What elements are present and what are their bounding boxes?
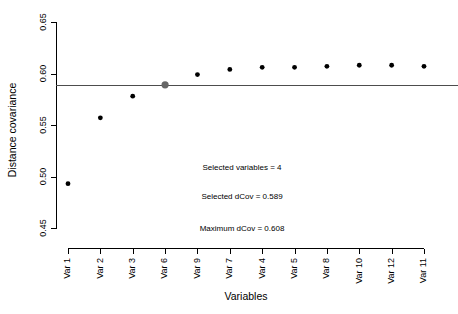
x-tick-labels: Var 1Var 2Var 3Var 6Var 9Var 7Var 4Var 5… — [62, 258, 428, 284]
data-point — [98, 115, 103, 120]
data-point — [325, 64, 330, 69]
plot-canvas: 0.450.500.550.600.65 Var 1Var 2Var 3Var … — [0, 0, 458, 314]
data-point — [195, 72, 200, 77]
selected-data-point — [161, 81, 168, 88]
x-tick-label: Var 6 — [159, 258, 169, 279]
annotation-line: Maximum dCov = 0.608 — [200, 224, 285, 233]
x-tick-label: Var 10 — [354, 258, 364, 284]
annotations: Selected variables = 4Selected dCov = 0.… — [200, 163, 285, 233]
data-point — [357, 63, 362, 68]
y-tick-label: 0.60 — [38, 65, 48, 83]
data-point — [227, 67, 232, 72]
x-tick-label: Var 11 — [418, 258, 428, 283]
x-axis — [68, 249, 425, 255]
x-tick-label: Var 1 — [62, 258, 72, 279]
x-tick-label: Var 5 — [289, 258, 299, 279]
y-tick-labels: 0.450.500.550.600.65 — [38, 13, 48, 237]
data-point — [292, 65, 297, 70]
y-tick-label: 0.65 — [38, 13, 48, 31]
y-axis-title: Distance covariance — [6, 83, 18, 178]
x-tick-label: Var 9 — [192, 258, 202, 279]
x-tick-label: Var 8 — [321, 258, 331, 279]
x-tick-label: Var 3 — [127, 258, 137, 279]
x-tick-label: Var 7 — [224, 258, 234, 279]
distance-covariance-scatter-plot: 0.450.500.550.600.65 Var 1Var 2Var 3Var … — [0, 0, 458, 314]
data-point — [389, 63, 394, 68]
data-point — [66, 181, 71, 186]
data-point — [422, 64, 427, 69]
annotation-line: Selected variables = 4 — [203, 163, 282, 172]
x-tick-label: Var 4 — [257, 258, 267, 279]
data-point — [130, 94, 135, 99]
x-tick-label: Var 12 — [386, 258, 396, 284]
data-point — [260, 65, 265, 70]
y-tick-label: 0.50 — [38, 168, 48, 186]
y-axis — [51, 22, 57, 229]
annotation-line: Selected dCov = 0.589 — [201, 192, 283, 201]
y-tick-label: 0.55 — [38, 116, 48, 134]
x-tick-label: Var 2 — [95, 258, 105, 279]
y-tick-label: 0.45 — [38, 219, 48, 237]
x-axis-title: Variables — [225, 290, 268, 302]
